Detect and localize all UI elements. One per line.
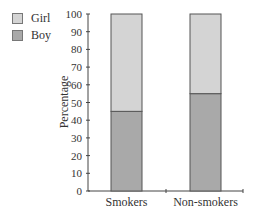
y-tick-label: 90 <box>71 26 83 38</box>
bars: SmokersNon-smokers <box>106 14 239 209</box>
y-tick-label: 80 <box>71 43 83 55</box>
y-tick-label: 60 <box>71 79 83 91</box>
y-tick-label: 40 <box>71 114 83 126</box>
y-tick-label: 50 <box>71 97 83 109</box>
y-tick-label: 100 <box>66 8 83 20</box>
y-tick-label: 10 <box>71 167 83 179</box>
y-axis-label: Percentage <box>57 76 71 129</box>
bar-segment-boy-non-smokers <box>190 94 221 191</box>
bar-segment-girl-smokers <box>111 14 142 111</box>
bar-segment-girl-non-smokers <box>190 14 221 94</box>
stacked-bar-chart: 0102030405060708090100 SmokersNon-smoker… <box>0 0 254 212</box>
x-category-label: Smokers <box>106 195 148 209</box>
bar-segment-boy-smokers <box>111 111 142 191</box>
y-tick-label: 70 <box>71 61 83 73</box>
y-tick-label: 30 <box>71 132 83 144</box>
y-tick-label: 20 <box>71 150 83 162</box>
x-category-label: Non-smokers <box>173 195 238 209</box>
y-tick-label: 0 <box>77 185 83 197</box>
